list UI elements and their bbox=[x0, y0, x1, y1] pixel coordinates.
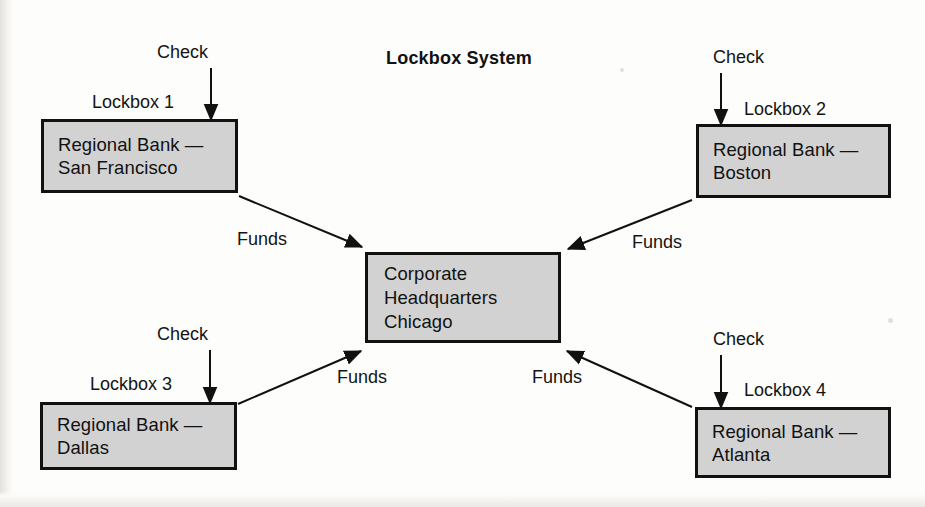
node-box-lockbox-2[interactable]: Regional Bank — Boston bbox=[696, 124, 891, 198]
node-line: San Francisco bbox=[58, 156, 235, 179]
check-label-lockbox-1: Check bbox=[157, 42, 208, 62]
node-line: Regional Bank — bbox=[57, 413, 234, 436]
funds-label-lockbox-3: Funds bbox=[337, 367, 387, 387]
node-line: Chicago bbox=[384, 310, 558, 334]
funds-label-lockbox-2: Funds bbox=[632, 232, 682, 252]
diagram-canvas: Lockbox System Check Check Check Check L… bbox=[0, 0, 925, 507]
funds-label-lockbox-4: Funds bbox=[532, 367, 582, 387]
caption-lockbox-3: Lockbox 3 bbox=[90, 374, 172, 394]
node-line: Regional Bank — bbox=[58, 133, 235, 156]
node-box-lockbox-4[interactable]: Regional Bank — Atlanta bbox=[695, 407, 891, 478]
node-line: Boston bbox=[713, 161, 888, 184]
caption-lockbox-1: Lockbox 1 bbox=[92, 92, 174, 112]
caption-lockbox-2: Lockbox 2 bbox=[744, 99, 826, 119]
node-box-lockbox-1[interactable]: Regional Bank — San Francisco bbox=[41, 119, 238, 193]
caption-lockbox-4: Lockbox 4 bbox=[744, 380, 826, 400]
node-line: Regional Bank — bbox=[712, 420, 888, 443]
check-label-lockbox-4: Check bbox=[713, 329, 764, 349]
node-box-lockbox-3[interactable]: Regional Bank — Dallas bbox=[40, 402, 237, 470]
check-label-lockbox-3: Check bbox=[157, 324, 208, 344]
node-line: Regional Bank — bbox=[713, 138, 888, 161]
check-label-lockbox-2: Check bbox=[713, 47, 764, 67]
node-line: Atlanta bbox=[712, 443, 888, 466]
funds-arrow-lockbox-4 bbox=[567, 351, 692, 407]
node-line: Dallas bbox=[57, 436, 234, 459]
funds-label-lockbox-1: Funds bbox=[237, 229, 287, 249]
node-line: Corporate bbox=[384, 262, 558, 286]
node-line: Headquarters bbox=[384, 286, 558, 310]
node-box-corporate-headquarters[interactable]: Corporate Headquarters Chicago bbox=[365, 252, 561, 343]
